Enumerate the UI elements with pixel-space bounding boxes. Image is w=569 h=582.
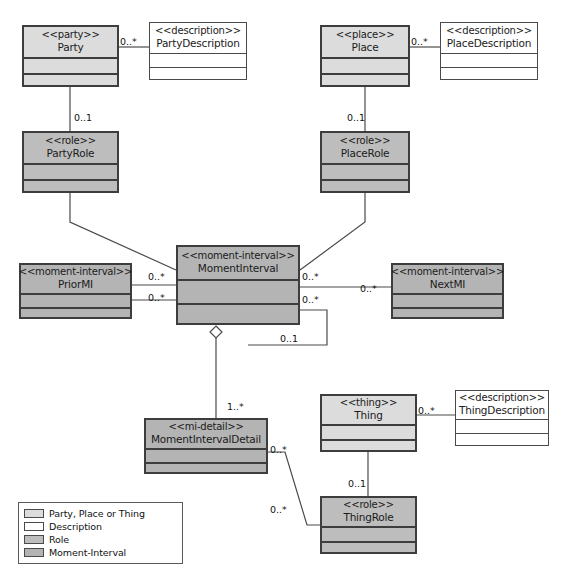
class-name-thing_role: ThingRole	[343, 511, 393, 523]
class-header-place: <<place>>Place	[322, 27, 408, 57]
multiplicity-priormi-mi: 0..*	[148, 271, 165, 282]
multiplicity-detail-thingrole-2: 0..*	[270, 504, 287, 515]
class-operations-thing	[322, 439, 415, 450]
class-attributes-moment_interval	[178, 279, 298, 303]
class-attributes-party_role	[24, 163, 117, 179]
legend-row-moment_interval: Moment-Interval	[24, 546, 177, 559]
multiplicity-thing-desc: 0..*	[418, 405, 435, 416]
class-name-party_description: PartyDescription	[156, 37, 240, 49]
class-header-place_role: <<role>>PlaceRole	[322, 133, 408, 163]
class-header-moment_interval_detail: <<mi-detail>>MomentIntervalDetail	[146, 420, 266, 448]
class-name-thing: Thing	[354, 409, 382, 421]
class-stereotype-party_role: <<role>>	[45, 135, 96, 147]
legend-label-description: Description	[49, 521, 102, 532]
class-operations-party_role	[24, 179, 117, 191]
class-attributes-party_description	[150, 53, 246, 67]
class-stereotype-thing_role: <<role>>	[343, 499, 394, 511]
multiplicity-mi-nextmi-right: 0..*	[360, 283, 377, 294]
legend-swatch-party_place_thing	[24, 509, 44, 518]
class-name-party: Party	[58, 41, 84, 53]
class-header-thing_role: <<role>>ThingRole	[322, 498, 415, 526]
class-operations-thing_description	[456, 433, 548, 445]
legend-label-role: Role	[49, 534, 69, 545]
class-attributes-thing_role	[322, 526, 415, 541]
class-attributes-place	[322, 57, 408, 73]
class-name-prior_mi: PriorMI	[58, 278, 93, 290]
class-attributes-party	[24, 57, 117, 73]
multiplicity-party-partyrole: 0..1	[74, 112, 92, 123]
multiplicity-detail-thingrole: 0..*	[270, 444, 287, 455]
class-operations-next_mi	[393, 307, 502, 317]
multiplicity-party-desc: 0..*	[120, 36, 137, 47]
uml-diagram-canvas: <<party>>Party<<description>>PartyDescri…	[0, 0, 569, 582]
class-box-party_description[interactable]: <<description>>PartyDescription	[149, 22, 247, 80]
legend-label-party_place_thing: Party, Place or Thing	[49, 508, 145, 519]
class-box-place_role[interactable]: <<role>>PlaceRole	[320, 131, 410, 193]
class-header-place_description: <<description>>PlaceDescription	[441, 23, 537, 53]
class-stereotype-moment_interval_detail: <<mi-detail>>	[168, 421, 243, 433]
class-stereotype-place_description: <<description>>	[446, 25, 532, 37]
multiplicity-place-desc: 0..*	[411, 36, 428, 47]
legend-swatch-moment_interval	[24, 548, 44, 557]
class-name-place_role: PlaceRole	[341, 147, 390, 159]
class-header-prior_mi: <<moment-interval>>PriorMI	[21, 265, 130, 293]
class-box-thing_role[interactable]: <<role>>ThingRole	[320, 496, 417, 554]
legend-row-role: Role	[24, 533, 177, 546]
class-stereotype-party_description: <<description>>	[155, 25, 241, 37]
line-placerole-momentinterval	[300, 193, 365, 270]
class-operations-party_description	[150, 67, 246, 79]
class-stereotype-place: <<place>>	[336, 29, 395, 41]
class-name-next_mi: NextMI	[430, 278, 465, 290]
multiplicity-priormi-mi-2: 0..*	[148, 292, 165, 303]
class-box-place_description[interactable]: <<description>>PlaceDescription	[440, 22, 538, 80]
class-operations-thing_role	[322, 541, 415, 552]
legend-label-moment_interval: Moment-Interval	[49, 547, 126, 558]
class-attributes-thing_description	[456, 419, 548, 433]
class-header-party: <<party>>Party	[24, 27, 117, 57]
class-stereotype-place_role: <<role>>	[340, 135, 391, 147]
class-header-next_mi: <<moment-interval>>NextMI	[393, 265, 502, 293]
class-attributes-next_mi	[393, 293, 502, 307]
class-attributes-place_role	[322, 163, 408, 179]
aggregation-diamond-icon	[210, 326, 222, 338]
class-name-moment_interval_detail: MomentIntervalDetail	[151, 433, 261, 445]
class-box-thing[interactable]: <<thing>>Thing	[320, 394, 417, 452]
class-header-thing: <<thing>>Thing	[322, 396, 415, 424]
class-header-moment_interval: <<moment-interval>>MomentInterval	[178, 247, 298, 279]
class-stereotype-moment_interval: <<moment-interval>>	[181, 250, 294, 262]
class-operations-place_role	[322, 179, 408, 191]
multiplicity-thing-thingrole: 0..1	[348, 478, 366, 489]
class-box-party[interactable]: <<party>>Party	[22, 25, 119, 87]
class-stereotype-thing_description: <<description>>	[459, 392, 545, 404]
class-box-moment_interval[interactable]: <<moment-interval>>MomentInterval	[176, 245, 300, 325]
class-box-thing_description[interactable]: <<description>>ThingDescription	[455, 390, 549, 446]
class-box-party_role[interactable]: <<role>>PartyRole	[22, 131, 119, 193]
class-header-thing_description: <<description>>ThingDescription	[456, 391, 548, 419]
class-box-place[interactable]: <<place>>Place	[320, 25, 410, 87]
class-operations-place_description	[441, 67, 537, 79]
class-box-next_mi[interactable]: <<moment-interval>>NextMI	[391, 263, 504, 319]
class-name-place_description: PlaceDescription	[447, 37, 532, 49]
class-stereotype-prior_mi: <<moment-interval>>	[19, 266, 132, 278]
multiplicity-mi-detail: 1..*	[227, 401, 244, 412]
class-stereotype-next_mi: <<moment-interval>>	[391, 266, 504, 278]
legend-row-party_place_thing: Party, Place or Thing	[24, 507, 177, 520]
class-name-place: Place	[352, 41, 379, 53]
class-box-prior_mi[interactable]: <<moment-interval>>PriorMI	[19, 263, 132, 319]
class-name-thing_description: ThingDescription	[459, 404, 545, 416]
class-stereotype-thing: <<thing>>	[340, 397, 397, 409]
legend-row-description: Description	[24, 520, 177, 533]
class-name-party_role: PartyRole	[47, 147, 95, 159]
class-stereotype-party: <<party>>	[41, 29, 99, 41]
class-attributes-place_description	[441, 53, 537, 67]
class-header-party_description: <<description>>PartyDescription	[150, 23, 246, 53]
legend-swatch-role	[24, 535, 44, 544]
class-name-moment_interval: MomentInterval	[198, 262, 278, 274]
class-attributes-moment_interval_detail	[146, 448, 266, 462]
class-header-party_role: <<role>>PartyRole	[24, 133, 117, 163]
class-box-moment_interval_detail[interactable]: <<mi-detail>>MomentIntervalDetail	[144, 418, 268, 474]
class-operations-moment_interval_detail	[146, 462, 266, 472]
class-attributes-thing	[322, 424, 415, 439]
class-operations-prior_mi	[21, 307, 130, 317]
line-partyrole-momentinterval	[70, 193, 176, 270]
